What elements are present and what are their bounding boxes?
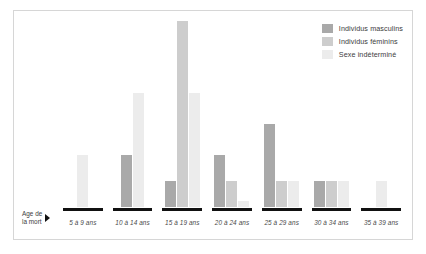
bar: [165, 181, 176, 207]
axis-tick: [312, 208, 352, 211]
bar: [314, 181, 325, 207]
bar-group-bars: [112, 21, 154, 207]
x-axis-title-text: Age de la mort: [22, 210, 42, 225]
bar: [276, 181, 287, 207]
axis-tick: [162, 208, 202, 211]
legend-item-male: Individus masculins: [322, 23, 403, 34]
axis-tick: [212, 208, 252, 211]
legend-label-female: Individus féminins: [339, 37, 398, 46]
category-label: 35 à 39 ans: [348, 219, 414, 226]
bar: [77, 155, 88, 207]
axis-tick: [63, 208, 103, 211]
bar: [189, 93, 200, 207]
legend-swatch-male: [322, 24, 333, 33]
bar-group: 25 à 29 ans: [261, 21, 303, 207]
bar-group-bars: [62, 21, 104, 207]
bar: [226, 181, 237, 207]
bar-group: 5 à 9 ans: [62, 21, 104, 207]
bar-group: 15 à 19 ans: [161, 21, 203, 207]
bar: [326, 181, 337, 207]
legend-item-female: Individus féminins: [322, 36, 403, 47]
bar: [121, 155, 132, 207]
legend-item-unknown: Sexe indéterminé: [322, 49, 403, 60]
bar: [214, 155, 225, 207]
bar: [288, 181, 299, 207]
bar: [376, 181, 387, 207]
bar-group: 20 à 24 ans: [211, 21, 253, 207]
bar: [177, 21, 188, 207]
axis-tick: [361, 208, 401, 211]
right-arrow-icon: [45, 214, 50, 222]
bar-group-bars: [211, 21, 253, 207]
bar-group: 10 à 14 ans: [112, 21, 154, 207]
x-axis-title: Age de la mort: [22, 210, 50, 225]
legend-swatch-female: [322, 37, 333, 46]
legend-label-unknown: Sexe indéterminé: [339, 50, 397, 59]
axis-tick: [262, 208, 302, 211]
bar: [238, 201, 249, 207]
legend-swatch-unknown: [322, 50, 333, 59]
bar-group-bars: [161, 21, 203, 207]
axis-tick: [113, 208, 153, 211]
bar: [338, 181, 349, 207]
chart-figure: 5 à 9 ans10 à 14 ans15 à 19 ans20 à 24 a…: [13, 10, 413, 240]
bar: [264, 124, 275, 207]
bar: [133, 93, 144, 207]
legend-label-male: Individus masculins: [339, 24, 403, 33]
chart-legend: Individus masculinsIndividus fémininsSex…: [322, 23, 403, 60]
bar-group-bars: [261, 21, 303, 207]
